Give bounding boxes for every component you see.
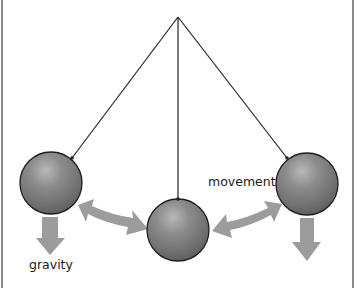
movement-arrow-left	[78, 199, 148, 235]
string-left	[72, 17, 178, 158]
gravity-arrow-right	[292, 218, 321, 261]
pendulum-figure	[0, 0, 357, 288]
ball-right	[276, 153, 338, 215]
ball-center	[147, 197, 209, 261]
movement-arrow-right	[212, 201, 282, 238]
pendulum-diagram: gravity movement	[0, 0, 357, 288]
gravity-label: gravity	[29, 259, 73, 272]
gravity-arrow-left	[36, 217, 65, 255]
string-right	[178, 17, 287, 158]
movement-label: movement	[208, 176, 276, 189]
ball-left	[20, 152, 82, 214]
